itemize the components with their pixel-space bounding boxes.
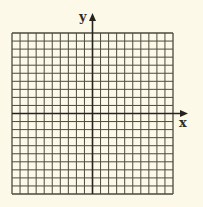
axes	[12, 13, 188, 194]
coordinate-plane	[0, 0, 203, 207]
y-axis-arrow-icon	[89, 13, 96, 21]
x-axis-label: x	[179, 116, 187, 129]
y-axis-label: y	[79, 10, 87, 23]
